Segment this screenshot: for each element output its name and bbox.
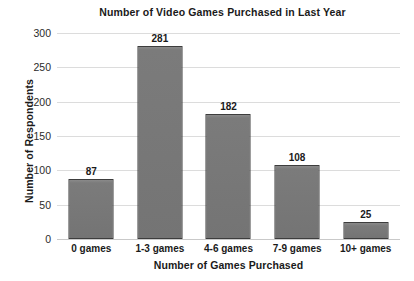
y-axis-tick-label: 200 xyxy=(33,96,51,108)
gridline xyxy=(57,239,400,240)
y-axis-tick-label: 0 xyxy=(45,233,51,245)
y-axis-tick-label: 100 xyxy=(33,164,51,176)
bar-value-label: 25 xyxy=(360,209,371,220)
x-axis-category-label: 0 games xyxy=(71,243,111,254)
bar-value-label: 87 xyxy=(86,166,97,177)
bar-chart: Number of Video Games Purchased in Last … xyxy=(0,0,414,281)
x-axis-category-label: 7-9 games xyxy=(273,243,322,254)
bar-group: 1824-6 games xyxy=(194,33,263,239)
bar-value-label: 281 xyxy=(152,33,169,44)
x-axis-category-label: 1-3 games xyxy=(135,243,184,254)
y-axis-tick-label: 150 xyxy=(33,130,51,142)
bar-group: 2510+ games xyxy=(331,33,400,239)
bar[interactable]: 2510+ games xyxy=(343,222,388,239)
bar-value-label: 108 xyxy=(289,152,306,163)
bar-group: 1087-9 games xyxy=(263,33,332,239)
y-axis-tick-label: 250 xyxy=(33,61,51,73)
chart-title: Number of Video Games Purchased in Last … xyxy=(45,6,400,18)
x-axis-title: Number of Games Purchased xyxy=(57,259,400,271)
bar[interactable]: 870 games xyxy=(69,179,114,239)
bar-group: 870 games xyxy=(57,33,126,239)
bar-group: 2811-3 games xyxy=(126,33,195,239)
bar[interactable]: 1824-6 games xyxy=(206,114,251,239)
x-axis-category-label: 10+ games xyxy=(340,243,391,254)
bar-value-label: 182 xyxy=(220,101,237,112)
bar[interactable]: 2811-3 games xyxy=(137,46,182,239)
bar[interactable]: 1087-9 games xyxy=(275,165,320,239)
plot-area: 050100150200250300 870 games2811-3 games… xyxy=(57,33,400,239)
bar-series: 870 games2811-3 games1824-6 games1087-9 … xyxy=(57,33,400,239)
y-axis-tick-label: 50 xyxy=(39,199,51,211)
x-axis-category-label: 4-6 games xyxy=(204,243,253,254)
y-axis-tick-label: 300 xyxy=(33,27,51,39)
